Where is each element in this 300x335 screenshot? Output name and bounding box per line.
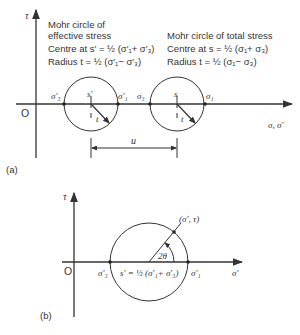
- sigma3-effective-label: σ′₃: [51, 91, 61, 101]
- svg-text:effective stress: effective stress: [48, 30, 111, 41]
- sigma1-total-label: σ₁: [206, 91, 214, 101]
- caption-a: (a): [6, 164, 18, 175]
- svg-text:Centre at s = ½ (σ₁+ σ₃): Centre at s = ½ (σ₁+ σ₃): [167, 43, 268, 54]
- sigma3-total-label: σ₃: [137, 91, 145, 101]
- sigma1-effective-label: σ′₁: [118, 91, 128, 101]
- total-annotation: Mohr circle of total stress Centre at s …: [167, 30, 273, 67]
- sigma1-label-b: σ′₁: [191, 268, 201, 278]
- panel-b: τ O σ′ 2θ (σ′, τ) σ′₃ σ′₁ s′ = ½ (σ′₁+ σ…: [40, 191, 242, 321]
- mohr-circle-b: 2θ (σ′, τ) σ′₃ σ′₁ s′ = ½ (σ′₁+ σ′₃): [98, 214, 201, 301]
- caption-b: (b): [40, 310, 52, 321]
- origin-label-b: O: [64, 265, 72, 277]
- u-label: u: [131, 135, 136, 146]
- stress-point-label: (σ′, τ): [179, 214, 199, 224]
- mohr-circle-figure: τ O σ, σ′ σ′₃ σ′₁ s′ t σ₃ σ₁ s t: [0, 0, 300, 335]
- radius-effective-label: t: [96, 114, 99, 124]
- centre-label-b: s′ = ½ (σ′₁+ σ′₃): [120, 268, 178, 278]
- origin-label: O: [21, 107, 29, 119]
- radius-total-label: t: [181, 114, 184, 124]
- sigma-axis-label-b: σ′: [232, 268, 239, 278]
- svg-text:Mohr circle of total stress: Mohr circle of total stress: [167, 30, 273, 41]
- sigma-axis-label: σ, σ′: [268, 120, 284, 130]
- angle-label: 2θ: [158, 251, 168, 261]
- tau-axis-label-b: τ: [63, 191, 67, 202]
- panel-a: τ O σ, σ′ σ′₃ σ′₁ s′ t σ₃ σ₁ s t: [6, 10, 292, 175]
- centre-total-label: s: [174, 89, 178, 99]
- svg-text:Radius t = ½ (σ′₁− σ′₃): Radius t = ½ (σ′₁− σ′₃): [48, 56, 141, 67]
- figure-canvas: τ O σ, σ′ σ′₃ σ′₁ s′ t σ₃ σ₁ s t: [0, 0, 300, 335]
- effective-annotation: Mohr circle of effective stress Centre a…: [48, 19, 155, 67]
- centre-effective-label: s′: [87, 89, 94, 99]
- svg-text:Mohr circle of: Mohr circle of: [48, 19, 105, 30]
- svg-text:Radius t = ½ (σ₁− σ₃): Radius t = ½ (σ₁− σ₃): [167, 56, 257, 67]
- svg-text:Centre at s′ = ½ (σ′₁+ σ′₃): Centre at s′ = ½ (σ′₁+ σ′₃): [48, 43, 155, 54]
- pore-pressure-shift: u: [91, 135, 177, 158]
- sigma3-label-b: σ′₃: [98, 268, 108, 278]
- tau-axis-label: τ: [25, 10, 29, 21]
